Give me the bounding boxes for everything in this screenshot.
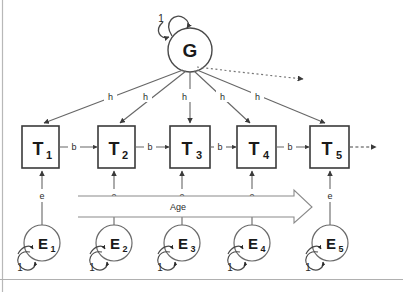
- path-label-h-5: h: [255, 92, 260, 102]
- error-node-E5-loop-label: 1: [305, 262, 311, 273]
- path-label-h-2: h: [143, 92, 148, 102]
- path-label-b-3: b: [217, 142, 222, 152]
- trait-node-T3-subscript: 3: [196, 149, 202, 161]
- path-label-h-3: h: [182, 92, 187, 102]
- path-label-h-4: h: [220, 92, 225, 102]
- trait-node-T4-label: T: [249, 139, 260, 159]
- trait-node-T2-subscript: 2: [122, 149, 128, 161]
- path-label-b-4: b: [287, 142, 292, 152]
- path-label-b-1: b: [71, 142, 76, 152]
- path-label-e-5: e: [327, 191, 332, 201]
- g-self-loop-label: 1: [158, 13, 164, 24]
- error-node-E2-label: E: [110, 235, 120, 252]
- path-diagram-svg: G 1 h h h h h T 1 T 2 T 3: [0, 0, 403, 292]
- error-node-E4-subscript: 4: [260, 244, 265, 254]
- trait-node-T3-label: T: [182, 139, 193, 159]
- trait-node-T1-label: T: [33, 139, 44, 159]
- error-node-E3-loop-label: 1: [157, 262, 163, 273]
- trait-node-T5-label: T: [322, 139, 333, 159]
- g-self-loop-bottom: [159, 22, 169, 38]
- path-label-b-2: b: [147, 142, 152, 152]
- trait-node-T2-label: T: [109, 139, 120, 159]
- path-G-future-dotted: [197, 67, 303, 79]
- error-node-E3-label: E: [178, 235, 188, 252]
- trait-node-T5-subscript: 5: [336, 149, 342, 161]
- error-node-E1-label: E: [38, 235, 48, 252]
- diagram-canvas: G 1 h h h h h T 1 T 2 T 3: [0, 0, 403, 292]
- path-label-e-1: e: [39, 191, 44, 201]
- path-G-to-T2: [120, 71, 186, 123]
- error-node-E4-label: E: [248, 235, 258, 252]
- error-node-E3-subscript: 3: [190, 244, 195, 254]
- trait-node-T4-subscript: 4: [263, 149, 270, 161]
- error-node-E4-loop-label: 1: [227, 262, 233, 273]
- error-node-E5-label: E: [326, 235, 336, 252]
- error-node-E5-subscript: 5: [338, 244, 343, 254]
- error-node-E2-loop-label: 1: [89, 262, 95, 273]
- path-label-h-1: h: [108, 92, 113, 102]
- age-axis-label: Age: [170, 202, 186, 212]
- error-node-E1-subscript: 1: [50, 244, 55, 254]
- trait-node-T1-subscript: 1: [46, 149, 52, 161]
- error-node-E2-subscript: 2: [122, 244, 127, 254]
- latent-node-G-label: G: [183, 40, 198, 61]
- error-node-E1-loop-label: 1: [17, 262, 23, 273]
